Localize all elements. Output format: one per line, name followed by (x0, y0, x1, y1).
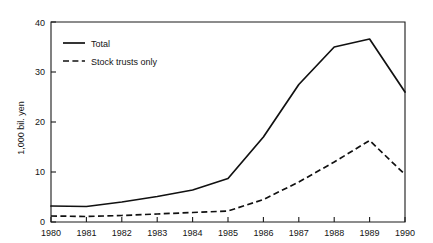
y-tick-label-10: 10 (35, 167, 45, 177)
x-tick-label-1980: 1980 (41, 228, 61, 238)
chart-figure: 0 10 20 30 40 1,000 bil. yen 1980 1981 (0, 0, 433, 243)
x-tick-label-1986: 1986 (253, 228, 273, 238)
x-tick-label-1989: 1989 (360, 228, 380, 238)
x-tick-label-1987: 1987 (289, 228, 309, 238)
y-tick-label-40: 40 (35, 18, 45, 28)
x-tick-label-1983: 1983 (147, 228, 167, 238)
x-tick-label-1985: 1985 (218, 228, 238, 238)
x-tick-label-1981: 1981 (76, 228, 96, 238)
y-axis-title: 1,000 bil. yen (16, 101, 26, 155)
line-chart: 0 10 20 30 40 1,000 bil. yen 1980 1981 (0, 0, 433, 243)
legend-label-stock-trusts-only: Stock trusts only (91, 57, 158, 67)
x-tick-label-1990: 1990 (395, 228, 415, 238)
y-tick-label-20: 20 (35, 117, 45, 127)
x-tick-label-1984: 1984 (183, 228, 203, 238)
x-tick-label-1982: 1982 (112, 228, 132, 238)
legend-label-total: Total (91, 39, 110, 49)
y-tick-label-0: 0 (40, 217, 45, 227)
x-tick-label-1988: 1988 (324, 228, 344, 238)
y-tick-label-30: 30 (35, 67, 45, 77)
